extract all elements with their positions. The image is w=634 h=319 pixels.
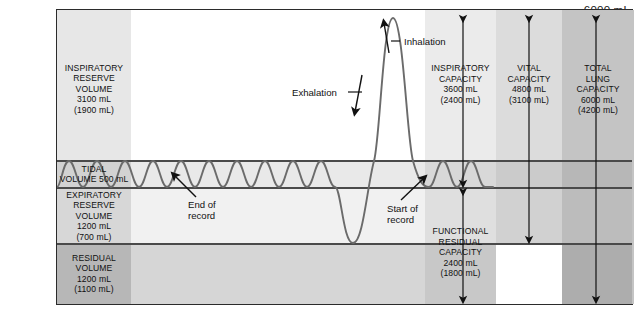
capacity-arrows (57, 10, 634, 306)
end-of-record-line-1: End of (188, 199, 216, 210)
plot-area: INSPIRATORY RESERVE VOLUME 3100 mL (1900… (56, 9, 633, 305)
spirogram-figure: 6000 mL 5000 mL 4000 mL 3000 mL 2000 mL … (0, 0, 634, 319)
start-of-record-line-2: record (387, 214, 418, 225)
inhalation-callout: Inhalation (404, 36, 446, 47)
start-of-record-callout: Start of record (387, 203, 418, 225)
end-of-record-callout: End of record (188, 199, 216, 221)
start-of-record-line-1: Start of (387, 203, 418, 214)
end-of-record-line-2: record (188, 210, 216, 221)
exhalation-callout: Exhalation (292, 87, 337, 98)
